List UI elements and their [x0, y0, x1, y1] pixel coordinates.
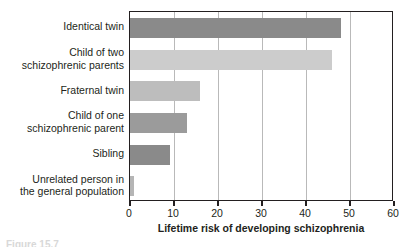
bar-row	[130, 145, 394, 165]
figure-caption: Figure 15.7	[6, 239, 59, 247]
tick-mark-20	[217, 201, 219, 206]
x-axis-title: Lifetime risk of developing schizophreni…	[129, 222, 393, 234]
category-label-sibling: Sibling	[0, 147, 124, 160]
bar-row	[130, 81, 394, 101]
category-label-fraternal-twin: Fraternal twin	[0, 84, 124, 97]
tick-mark-60	[393, 201, 395, 206]
tick-label-20: 20	[211, 207, 223, 219]
tick-label-60: 60	[387, 207, 399, 219]
tick-mark-40	[305, 201, 307, 206]
category-label-unrelated-person: Unrelated person in the general populati…	[0, 173, 124, 198]
bar	[130, 50, 332, 70]
x-axis-ticks: 0102030405060	[129, 201, 393, 207]
bar	[130, 176, 134, 196]
category-label-child-of-one-schizophrenic-parent: Child of one schizophrenic parent	[0, 109, 124, 134]
bar	[130, 113, 187, 133]
tick-mark-30	[261, 201, 263, 206]
tick-label-10: 10	[167, 207, 179, 219]
tick-label-30: 30	[255, 207, 267, 219]
tick-mark-50	[349, 201, 351, 206]
bar	[130, 81, 200, 101]
category-axis-labels: Identical twin Child of two schizophreni…	[0, 11, 124, 201]
bar-row	[130, 18, 394, 38]
bar-series	[130, 12, 392, 200]
bar-row	[130, 176, 394, 196]
tick-mark-0	[129, 201, 131, 206]
tick-label-50: 50	[343, 207, 355, 219]
figure-bar-chart: Identical twin Child of two schizophreni…	[0, 0, 419, 247]
category-label-identical-twin: Identical twin	[0, 20, 124, 33]
bar-row	[130, 113, 394, 133]
bar	[130, 145, 170, 165]
bar	[130, 18, 341, 38]
category-label-child-of-two-schizophrenic-parents: Child of two schizophrenic parents	[0, 46, 124, 71]
tick-label-0: 0	[126, 207, 132, 219]
tick-label-40: 40	[299, 207, 311, 219]
plot-area	[129, 11, 393, 201]
bar-row	[130, 50, 394, 70]
tick-mark-10	[173, 201, 175, 206]
